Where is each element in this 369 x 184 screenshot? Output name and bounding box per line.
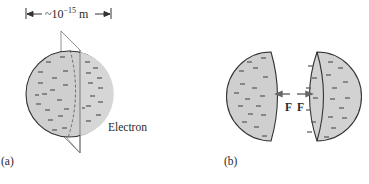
panel-b-label: (b) [224,155,238,168]
force-label-left: F [285,101,292,113]
panel-a: ~10−15m Electron ( [1,6,147,168]
force-label-right: F [297,101,304,113]
left-hemisphere [227,52,278,141]
electron-diagram: ~10−15m Electron ( [0,0,369,184]
force-arrows [276,92,312,97]
electron-label: Electron [108,121,147,133]
panel-b: F F (b) [224,52,362,168]
panel-a-label: (a) [1,155,14,168]
dimension-label: ~10−15m [45,6,89,21]
